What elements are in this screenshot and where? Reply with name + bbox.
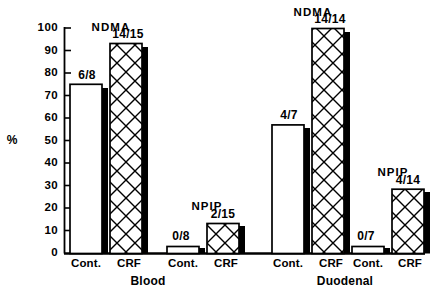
bar-value-label-duodenal-ndma-crf: 14/14	[304, 12, 356, 26]
y-tick-label-90: 90	[20, 44, 58, 56]
bar-duodenal-ndma-cont	[272, 125, 310, 254]
x-label-duodenal-ndma-cont: Cont.	[265, 257, 311, 269]
y-tick-label-10: 10	[20, 224, 58, 236]
bar-blood-npip-crf	[207, 224, 245, 254]
x-label-duodenal-npip-cont: Cont.	[345, 257, 391, 269]
bar-value-label-duodenal-npip-cont: 0/7	[346, 229, 386, 243]
bar-blood-npip-cont	[167, 247, 205, 254]
x-label-blood-ndma-cont: Cont.	[63, 257, 109, 269]
bar-blood-ndma-cont	[70, 84, 108, 253]
group-label-blood: Blood	[108, 274, 188, 288]
y-axis-title: %	[5, 133, 19, 147]
group-label-duodenal: Duodenal	[300, 274, 390, 288]
x-label-blood-ndma-crf: CRF	[108, 257, 150, 269]
bar-value-label-blood-npip-crf: 2/15	[198, 207, 248, 221]
y-tick-label-100: 100	[20, 21, 58, 33]
y-tick-label-30: 30	[20, 179, 58, 191]
y-tick-label-50: 50	[20, 134, 58, 146]
bar-value-label-blood-ndma-crf: 14/15	[102, 27, 154, 41]
bar-blood-ndma-crf	[110, 44, 148, 254]
bar-value-label-duodenal-npip-crf: 4/14	[383, 173, 433, 187]
y-tick-label-60: 60	[20, 111, 58, 123]
bar-duodenal-npip-crf	[392, 189, 430, 253]
chart-figure: 100 90 80 70 60 50 40 30 20 10 0 % NDMA …	[0, 0, 445, 299]
y-tick-label-80: 80	[20, 66, 58, 78]
bar-value-label-blood-ndma-cont: 6/8	[68, 68, 106, 82]
y-tick-label-40: 40	[20, 156, 58, 168]
bar-value-label-duodenal-ndma-cont: 4/7	[270, 108, 308, 122]
bar-chart-canvas	[0, 0, 445, 299]
y-tick-label-20: 20	[20, 201, 58, 213]
y-tick-label-0: 0	[20, 246, 58, 258]
bar-duodenal-ndma-crf	[312, 29, 350, 254]
bar-duodenal-npip-cont	[352, 247, 390, 254]
x-label-duodenal-npip-crf: CRF	[389, 257, 431, 269]
x-label-blood-npip-crf: CRF	[205, 257, 247, 269]
y-tick-label-70: 70	[20, 89, 58, 101]
bar-value-label-blood-npip-cont: 0/8	[161, 229, 201, 243]
x-label-blood-npip-cont: Cont.	[160, 257, 206, 269]
